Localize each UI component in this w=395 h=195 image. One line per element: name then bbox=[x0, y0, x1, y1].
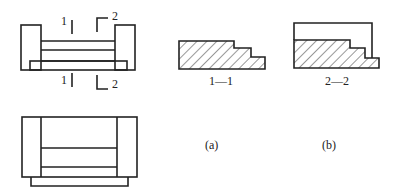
subfig-b-caption: (b) bbox=[322, 138, 336, 153]
cut-mark-2-top bbox=[97, 18, 108, 32]
right-block bbox=[115, 25, 135, 70]
cut-label-2-bottom: 2 bbox=[112, 77, 118, 92]
cut-label-1-top: 1 bbox=[61, 14, 67, 29]
section-2-2-caption: 2—2 bbox=[325, 74, 349, 89]
plan-view-bottom bbox=[22, 117, 137, 186]
left-block bbox=[21, 25, 41, 70]
base-platform bbox=[30, 61, 127, 70]
cut-mark-2-bottom bbox=[97, 75, 108, 89]
section-1-1-caption: 1—1 bbox=[209, 74, 233, 89]
cut-label-2-top: 2 bbox=[112, 9, 118, 24]
subfig-a-caption: (a) bbox=[205, 138, 218, 153]
cut-label-1-bottom: 1 bbox=[61, 73, 67, 88]
section-2-2 bbox=[294, 23, 379, 68]
section-1-1 bbox=[179, 41, 265, 69]
diagram-canvas bbox=[0, 0, 395, 195]
